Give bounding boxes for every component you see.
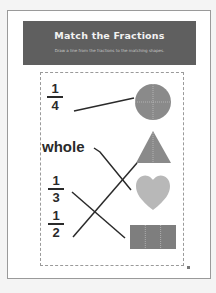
line-third-to-rectangle xyxy=(72,192,125,238)
page-marker xyxy=(187,266,190,269)
heart-whole-shape xyxy=(136,175,170,210)
circle-quarters-shape xyxy=(135,84,171,120)
shapes-and-lines xyxy=(0,0,216,293)
match-lines xyxy=(72,98,137,238)
line-half-to-triangle xyxy=(73,163,137,237)
line-whole-to-heart xyxy=(94,148,131,190)
triangle-halves-shape xyxy=(136,131,171,163)
line-quarter-to-circle xyxy=(74,98,134,111)
rectangle-thirds-shape xyxy=(130,225,176,249)
